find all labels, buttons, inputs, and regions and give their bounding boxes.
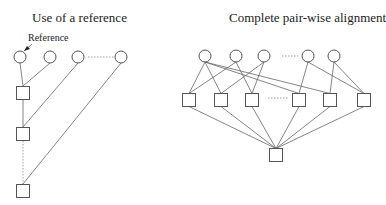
alignment-node-square [293,94,306,107]
sequence-node-circle [115,51,127,63]
merge-edge [221,107,276,149]
pair-edge [189,62,205,94]
edge [20,63,23,86]
alignment-node-square [17,128,30,141]
merge-edge [276,107,299,149]
edge [23,63,50,86]
alignment-node-square [246,94,259,107]
pair-edge [308,62,364,94]
pair-edge [205,62,330,94]
sequence-node-circle [258,50,270,62]
merge-edge [252,107,276,149]
merge-edge [276,107,364,149]
sequence-node-circle [302,50,314,62]
pair-edge [299,62,308,94]
merge-edge [189,107,276,149]
sequence-node-circle [230,50,242,62]
pair-edge [221,62,264,94]
pair-edge [236,62,252,94]
alignment-node-square [324,94,337,107]
alignment-node-square [215,94,228,107]
alignment-node-square [358,94,371,107]
edge [23,63,78,127]
pair-edge [205,62,299,94]
sequence-node-circle [14,51,26,63]
pair-edge [189,62,236,94]
edge [23,63,121,184]
pair-edge [330,62,334,94]
sequence-node-circle [199,50,211,62]
alignment-node-square [17,185,30,198]
result-node-square [270,149,283,162]
sequence-node-circle [44,51,56,63]
sequence-node-circle [328,50,340,62]
sequence-node-circle [72,51,84,63]
pair-edge [334,62,364,94]
merge-edge [276,107,330,149]
alignment-node-square [183,94,196,107]
alignment-node-square [17,87,30,100]
